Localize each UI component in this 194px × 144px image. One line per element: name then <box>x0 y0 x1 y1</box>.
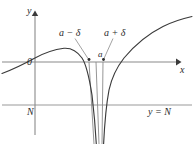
figure-container: y x 0 a − δ a + δ a N y = N <box>0 0 194 144</box>
label-a-plus-delta: a + δ <box>104 28 125 38</box>
math-figure-svg <box>0 0 194 144</box>
leader-line-a-minus-delta <box>75 39 88 59</box>
point-dot-a-minus-delta <box>88 58 91 61</box>
label-a-minus-delta: a − δ <box>59 28 80 38</box>
vertical-line-a <box>96 62 99 144</box>
y-axis-label: y <box>27 6 31 16</box>
x-axis-label: x <box>180 65 184 75</box>
label-N-threshold: N <box>27 107 34 117</box>
leader-line-a-plus-delta <box>104 39 113 59</box>
label-a: a <box>98 50 103 59</box>
curve-left-branch <box>2 48 96 144</box>
origin-label: 0 <box>27 57 32 67</box>
label-y-equals-N: y = N <box>148 107 171 117</box>
vertical-line-a-plus-delta <box>102 62 103 144</box>
y-axis-arrowhead <box>32 11 38 17</box>
